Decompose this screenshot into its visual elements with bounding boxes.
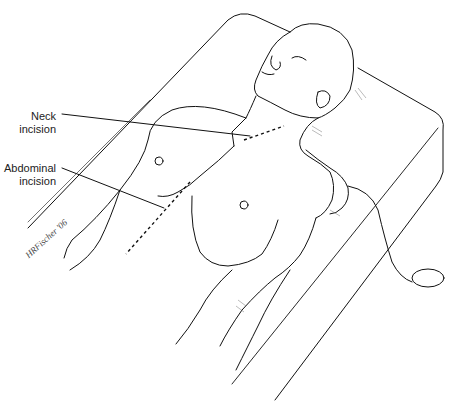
torso-right (220, 218, 316, 346)
face (254, 32, 318, 118)
table-edge (232, 128, 438, 384)
neck-leader-line (62, 114, 250, 136)
nipple-right (240, 201, 248, 209)
chest (158, 146, 234, 197)
body-bottom (236, 270, 290, 370)
abdominal-incision-label: Abdominal incision (4, 162, 56, 188)
inflation-bulb (412, 269, 444, 287)
torso-belly (192, 196, 278, 266)
neck-incision-path (244, 126, 284, 140)
abdominal-incision-path (126, 182, 190, 254)
eye (292, 56, 306, 60)
nipple-left (155, 157, 163, 165)
pillow (306, 150, 348, 214)
neck (232, 96, 256, 146)
abdominal-leader-line (62, 168, 164, 208)
head (290, 24, 354, 118)
neck-incision-label: Neck incision (18, 110, 56, 136)
nose (271, 56, 281, 70)
ear (316, 91, 330, 108)
illustration (0, 0, 456, 407)
shadow-hatching (236, 88, 366, 312)
shoulder-left (64, 106, 246, 258)
mouth (262, 72, 274, 75)
arm-lower (176, 270, 232, 344)
table-outline (28, 14, 443, 400)
arm-left (70, 190, 120, 270)
